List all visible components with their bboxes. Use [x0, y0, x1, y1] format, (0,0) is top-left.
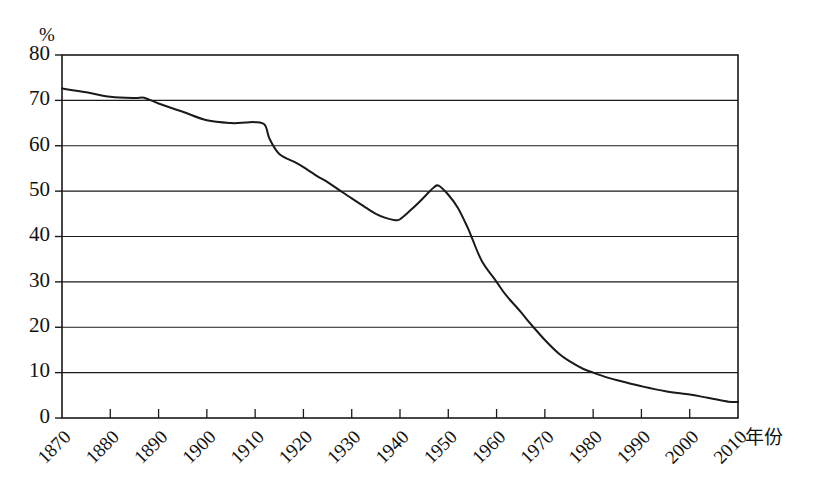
x-tick-label-1890: 1890 [130, 426, 172, 468]
y-axis-unit-label: % [39, 24, 55, 45]
x-tick-label-1870: 1870 [33, 426, 75, 468]
y-tick-label-40: 40 [29, 222, 50, 246]
chart-container: 01020304050607080 1870188018901900191019… [0, 0, 814, 495]
gridlines [62, 100, 738, 372]
y-axis-tick-marks [55, 55, 62, 418]
data-series-line [62, 89, 738, 403]
x-tick-label-1940: 1940 [371, 426, 413, 468]
y-tick-label-20: 20 [29, 313, 50, 337]
x-tick-label-1910: 1910 [226, 426, 268, 468]
y-tick-label-30: 30 [29, 268, 50, 292]
y-tick-label-70: 70 [29, 86, 50, 110]
x-tick-label-2000: 2000 [661, 426, 703, 468]
line-chart: 01020304050607080 1870188018901900191019… [0, 0, 814, 495]
y-tick-label-50: 50 [29, 177, 50, 201]
y-tick-label-10: 10 [29, 358, 50, 382]
x-tick-label-1980: 1980 [564, 426, 606, 468]
x-tick-label-1920: 1920 [275, 426, 317, 468]
x-tick-label-1970: 1970 [516, 426, 558, 468]
y-axis-tick-labels: 01020304050607080 [29, 41, 50, 428]
x-tick-label-1900: 1900 [178, 426, 220, 468]
x-tick-label-1990: 1990 [613, 426, 655, 468]
x-tick-label-1960: 1960 [468, 426, 510, 468]
y-tick-label-60: 60 [29, 132, 50, 156]
x-axis-tick-marks [110, 409, 689, 418]
x-tick-label-1930: 1930 [323, 426, 365, 468]
x-tick-label-1880: 1880 [81, 426, 123, 468]
x-tick-label-1950: 1950 [419, 426, 461, 468]
y-tick-label-0: 0 [40, 404, 51, 428]
x-axis-tick-labels: 1870188018901900191019201930194019501960… [33, 426, 751, 468]
x-axis-title: 年份 [745, 426, 783, 448]
